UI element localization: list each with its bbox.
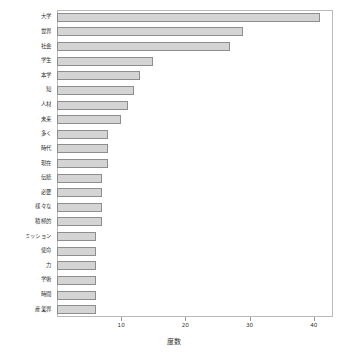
bar-fill — [57, 261, 96, 270]
category-label-伝統: 伝統 — [41, 175, 51, 180]
bar-学術 — [57, 276, 96, 285]
bar-fill — [57, 247, 96, 256]
bar-積極的 — [57, 217, 102, 226]
bar-fill — [57, 13, 320, 22]
bar-fill — [57, 57, 153, 66]
bar-fill — [57, 203, 102, 212]
category-label-時代: 時代 — [41, 146, 51, 151]
bar-fill — [57, 101, 128, 110]
category-label-力: 力 — [46, 263, 51, 268]
category-axis-labels: 大学世界社会学生本学知人材未来多く時代現在伝統必要様々な積極的ミッション使命力学… — [0, 10, 55, 317]
x-tick-mark-20 — [185, 317, 186, 321]
x-tick-label-30: 30 — [246, 323, 253, 329]
category-label-本学: 本学 — [41, 73, 51, 78]
category-label-使命: 使命 — [41, 249, 51, 254]
bar-大学 — [57, 13, 320, 22]
bar-力 — [57, 261, 96, 270]
bar-産業界 — [57, 305, 96, 314]
bar-本学 — [57, 71, 140, 80]
category-label-学生: 学生 — [41, 58, 51, 63]
category-label-学術: 学術 — [41, 278, 51, 283]
bar-ミッション — [57, 232, 96, 241]
bar-fill — [57, 27, 243, 36]
bar-学生 — [57, 57, 153, 66]
category-label-多く: 多く — [41, 132, 51, 137]
category-label-未来: 未来 — [41, 117, 51, 122]
bar-多く — [57, 130, 108, 139]
x-tick-mark-30 — [250, 317, 251, 321]
bar-fill — [57, 291, 96, 300]
bar-時代 — [57, 144, 108, 153]
bar-世界 — [57, 27, 243, 36]
category-label-世界: 世界 — [41, 29, 51, 34]
bar-fill — [57, 144, 108, 153]
x-tick-mark-40 — [314, 317, 315, 321]
bar-fill — [57, 232, 96, 241]
bar-fill — [57, 130, 108, 139]
category-label-社会: 社会 — [41, 44, 51, 49]
bar-未来 — [57, 115, 121, 124]
x-axis-title: 度数 — [0, 336, 348, 346]
value-axis: 10203040 — [57, 317, 333, 337]
category-label-様々な: 様々な — [35, 205, 51, 210]
x-tick-label-20: 20 — [182, 323, 189, 329]
bar-fill — [57, 86, 134, 95]
bar-必要 — [57, 188, 102, 197]
x-tick-label-10: 10 — [118, 323, 125, 329]
bar-fill — [57, 174, 102, 183]
bar-時間 — [57, 291, 96, 300]
bar-知 — [57, 86, 134, 95]
category-label-現在: 現在 — [41, 161, 51, 166]
bar-fill — [57, 188, 102, 197]
category-label-知: 知 — [46, 88, 51, 93]
bar-fill — [57, 217, 102, 226]
bar-使命 — [57, 247, 96, 256]
bar-fill — [57, 159, 108, 168]
category-label-積極的: 積極的 — [35, 219, 51, 224]
category-label-産業界: 産業界 — [35, 307, 51, 312]
category-label-必要: 必要 — [41, 190, 51, 195]
bar-fill — [57, 42, 230, 51]
frequency-bar-chart: 大学世界社会学生本学知人材未来多く時代現在伝統必要様々な積極的ミッション使命力学… — [0, 0, 348, 356]
bar-様々な — [57, 203, 102, 212]
bar-現在 — [57, 159, 108, 168]
bar-社会 — [57, 42, 230, 51]
bar-fill — [57, 71, 140, 80]
x-tick-label-40: 40 — [310, 323, 317, 329]
bar-伝統 — [57, 174, 102, 183]
category-label-時間: 時間 — [41, 292, 51, 297]
category-label-ミッション: ミッション — [25, 234, 51, 239]
bar-fill — [57, 276, 96, 285]
x-tick-mark-10 — [121, 317, 122, 321]
bars-layer — [57, 10, 333, 317]
bar-fill — [57, 115, 121, 124]
category-label-大学: 大学 — [41, 15, 51, 20]
bar-人材 — [57, 101, 128, 110]
bar-fill — [57, 305, 96, 314]
category-label-人材: 人材 — [41, 102, 51, 107]
